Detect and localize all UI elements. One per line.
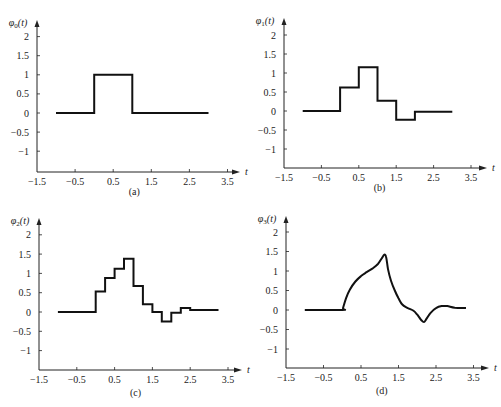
y-axis-arrow-icon [284,216,289,223]
x-tick-label: 3.5 [221,176,234,187]
y-tick-label: 1 [271,68,276,79]
x-axis-arrow-icon [232,170,240,175]
y-tick-label: −0.5 [260,324,278,335]
y-tick-label: 2 [24,31,29,42]
y-axis-label: φ3(t) [258,213,277,226]
x-tick-label: 2.5 [427,172,440,183]
x-tick-label: 0.5 [353,172,366,183]
y-tick-label: −0.5 [13,326,31,337]
y-tick-label: 1.5 [19,249,32,260]
x-tick-label: −1.5 [277,372,295,383]
subplot-c: 21.510.50−0.5−1−1.5−0.50.51.52.53.5φ2(t)… [11,215,250,399]
y-tick-label: −1 [265,144,276,155]
y-tick-label: 2 [26,229,31,240]
x-tick-label: 0.5 [108,374,121,385]
x-tick-label: 2.5 [430,372,443,383]
y-tick-label: 0 [26,307,31,318]
x-tick-label: −1.5 [30,374,48,385]
x-tick-label: −1.5 [275,172,293,183]
figure-canvas: 21.510.50−0.5−1−1.5−0.50.51.52.53.5φ0(t)… [0,0,501,407]
y-tick-label: 1 [24,69,29,80]
y-axis-arrow-icon [37,218,42,225]
x-tick-label: 3.5 [222,374,235,385]
y-axis-arrow-icon [35,20,40,27]
x-tick-label: 3.5 [465,172,478,183]
y-tick-label: 0 [271,106,276,117]
x-axis-arrow-icon [481,366,489,371]
x-tick-label: −0.5 [314,372,332,383]
y-tick-label: 1 [26,268,31,279]
y-axis-label: φ2(t) [11,215,30,228]
x-axis-arrow-icon [234,368,242,373]
panel-caption: (a) [129,186,140,198]
x-tick-label: 3.5 [467,372,480,383]
x-axis-label: t [245,166,248,177]
x-tick-label: −0.5 [68,374,86,385]
panel-caption: (b) [374,182,386,194]
panel-caption: (d) [376,385,388,397]
y-axis-arrow-icon [282,18,287,25]
y-tick-label: −1 [18,146,29,157]
subplot-a: 21.510.50−0.5−1−1.5−0.50.51.52.53.5φ0(t)… [9,17,248,198]
y-tick-label: 2 [273,227,278,238]
x-axis-arrow-icon [479,166,487,171]
x-tick-label: 1.5 [392,372,405,383]
series-line [303,67,453,119]
y-tick-label: 2 [271,30,276,41]
y-axis-label: φ1(t) [256,15,275,28]
y-tick-label: 0.5 [19,287,32,298]
y-axis-label: φ0(t) [9,17,28,30]
y-tick-label: −1 [267,344,278,355]
x-tick-label: 1.5 [145,176,158,187]
x-tick-label: 1.5 [390,172,403,183]
y-tick-label: 0 [24,108,29,119]
x-tick-label: −1.5 [28,176,46,187]
y-tick-label: 0.5 [17,88,30,99]
y-tick-label: −0.5 [258,125,276,136]
y-tick-label: −0.5 [11,127,29,138]
y-tick-label: 0 [273,305,278,316]
y-tick-label: 1.5 [17,50,30,61]
series-line [305,255,466,323]
y-tick-label: 1.5 [264,49,277,60]
y-tick-label: 0.5 [266,285,279,296]
y-tick-label: −1 [20,345,31,356]
x-axis-label: t [492,162,495,173]
x-tick-label: −0.5 [66,176,84,187]
series-line [58,259,219,322]
subplot-d: 21.510.50−0.5−1−1.5−0.50.51.52.53.5φ3(t)… [258,213,497,397]
x-tick-label: 0.5 [107,176,120,187]
series-line [56,75,209,113]
x-axis-label: t [494,362,497,373]
y-tick-label: 0.5 [264,87,277,98]
x-tick-label: 1.5 [146,374,159,385]
panel-caption: (c) [130,387,141,399]
x-tick-label: 2.5 [184,374,197,385]
x-axis-label: t [247,364,250,375]
x-tick-label: −0.5 [312,172,330,183]
subplot-b: 21.510.50−0.5−1−1.5−0.50.51.52.53.5φ1(t)… [256,15,495,194]
x-tick-label: 0.5 [355,372,368,383]
y-tick-label: 1.5 [266,246,279,257]
x-tick-label: 2.5 [183,176,196,187]
y-tick-label: 1 [273,266,278,277]
